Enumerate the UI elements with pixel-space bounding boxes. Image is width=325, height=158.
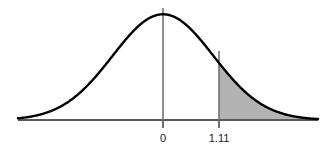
tick-label-zero: 0 xyxy=(160,132,166,144)
normal-curve xyxy=(18,14,318,119)
right-tail-shaded-area xyxy=(219,63,318,120)
tick-label-critical: 1.11 xyxy=(209,132,230,144)
normal-distribution-figure: 0 1.11 xyxy=(0,0,325,158)
